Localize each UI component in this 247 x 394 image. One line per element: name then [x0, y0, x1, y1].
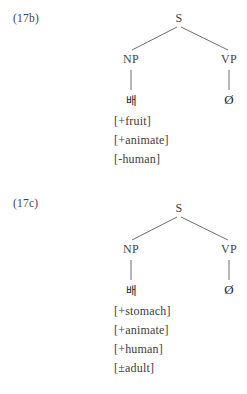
syntax-tree-17c: S NP VP 배 Ø — [100, 193, 247, 303]
feature-row: [+animate] — [114, 321, 171, 340]
tree-node-np: NP — [116, 242, 146, 257]
example-label-17b: (17b) — [13, 12, 39, 24]
syntax-tree-17b: S NP VP 배 Ø — [100, 8, 247, 118]
feature-row: [+animate] — [114, 131, 169, 150]
feature-matrix-17c: [+stomach] [+animate] [+human] [±adult] — [114, 302, 171, 378]
tree-node-np: NP — [116, 52, 146, 67]
feature-row: [+fruit] — [114, 112, 169, 131]
feature-row: [-human] — [114, 150, 169, 169]
tree-node-vp: VP — [214, 52, 244, 67]
example-label-17c: (17c) — [13, 197, 38, 209]
feature-matrix-17b: [+fruit] [+animate] [-human] — [114, 112, 169, 169]
page-root: { "page": { "background_color": "#ffffff… — [0, 0, 247, 394]
tree-terminal-np: 배 — [116, 282, 146, 298]
feature-row: [+stomach] — [114, 302, 171, 321]
tree-terminal-vp: Ø — [214, 92, 244, 108]
tree-terminal-vp: Ø — [214, 282, 244, 298]
tree-node-vp: VP — [214, 242, 244, 257]
tree-node-s: S — [172, 11, 186, 26]
tree-terminal-np: 배 — [116, 92, 146, 108]
feature-row: [+human] — [114, 340, 171, 359]
tree-node-s: S — [172, 201, 186, 216]
feature-row: [±adult] — [114, 359, 171, 378]
